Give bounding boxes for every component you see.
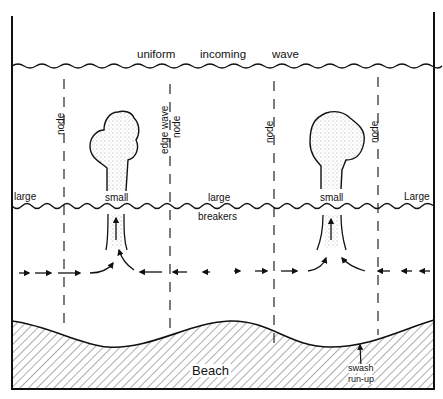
runup-label: run-up	[348, 375, 374, 384]
breaker-large-right: Large	[404, 192, 430, 202]
edge-wave-label: edge wave	[160, 106, 170, 154]
node-label-1: node	[56, 113, 66, 135]
rip-head-1	[90, 111, 139, 191]
breaker-large-mid: large	[208, 193, 230, 203]
title-word-uniform: uniform	[137, 49, 175, 61]
rip-neck-2b	[341, 215, 346, 250]
rip-neck-2	[317, 215, 323, 250]
longshore-arrows	[19, 250, 430, 273]
incoming-wave-line	[12, 64, 442, 68]
node-label-4: node	[370, 121, 380, 143]
beach-label: Beach	[190, 364, 231, 377]
swash-label: swash	[348, 364, 374, 373]
rip-head-2	[310, 112, 364, 189]
breakers-wave-line	[12, 204, 434, 209]
node-label-2: node	[172, 116, 182, 138]
breaker-large-left: large	[14, 192, 36, 202]
breaker-small-2: small	[320, 193, 343, 203]
title-word-wave: wave	[272, 49, 299, 61]
rip-neck-2-dots	[325, 215, 339, 248]
rip-neck-1	[106, 214, 108, 250]
breakers-label: breakers	[198, 212, 237, 222]
rip-neck-1b	[124, 214, 127, 250]
node-label-3: node	[265, 121, 275, 143]
title-word-incoming: incoming	[200, 49, 246, 61]
breaker-small-1: small	[105, 193, 128, 203]
